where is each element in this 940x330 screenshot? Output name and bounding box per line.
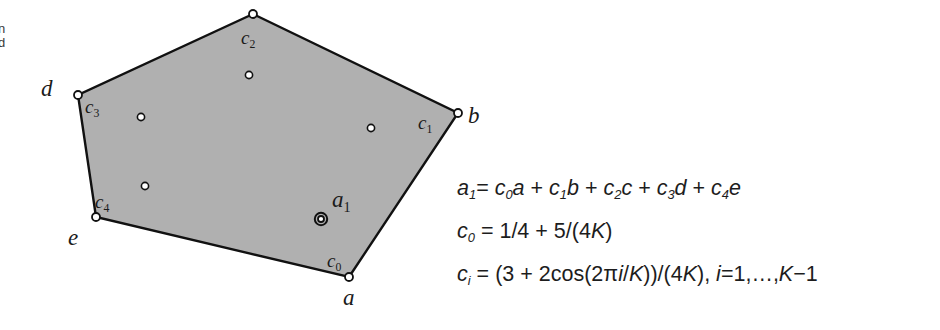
new-point-label-a1: a1 xyxy=(332,188,351,211)
control-label-c0: c0 xyxy=(327,251,341,270)
vertex-marker-a xyxy=(345,273,353,281)
formula-c0: c0 = 1/4 + 5/(4K) xyxy=(457,211,927,254)
vertex-marker-e xyxy=(92,213,100,221)
new-point-a1-inner-dot xyxy=(318,216,324,222)
formula-a1: a1= c0a + c1b + c2c + c3d + c4e xyxy=(457,168,927,211)
control-label-c1: c1 xyxy=(418,113,432,132)
formula-ci: ci = (3 + 2cos(2πi/K))/(4K), i=1,…,K−1 xyxy=(457,254,927,297)
control-label-c3: c3 xyxy=(85,97,99,116)
interior-point-3 xyxy=(367,124,374,131)
interior-point-2 xyxy=(137,113,144,120)
control-label-c4: c4 xyxy=(95,192,109,211)
figure-container: n d abdec0c1c2c3c4a1 a1= c0a + c1b + c2c… xyxy=(0,0,940,330)
vertex-label-a: a xyxy=(343,286,355,309)
vertex-marker-c xyxy=(249,10,257,18)
vertex-label-e: e xyxy=(68,226,78,249)
formula-block: a1= c0a + c1b + c2c + c3d + c4e c0 = 1/4… xyxy=(457,168,927,297)
interior-point-4 xyxy=(141,182,148,189)
interior-point-1 xyxy=(245,71,252,78)
control-polygon-shape xyxy=(78,14,458,277)
vertex-marker-b xyxy=(454,109,462,117)
control-label-c2: c2 xyxy=(241,28,255,47)
vertex-label-d: d xyxy=(41,77,53,100)
vertex-label-b: b xyxy=(468,104,480,127)
vertex-marker-d xyxy=(74,91,82,99)
